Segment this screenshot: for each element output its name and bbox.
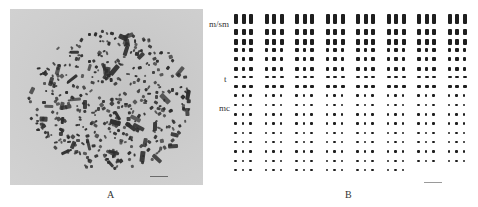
chromosome (157, 150, 161, 153)
karyotype-chromosome (341, 104, 344, 107)
row-label-mc: mc (219, 103, 230, 113)
karyotype-chromosome (303, 160, 306, 163)
karyotype-chromosome (249, 150, 252, 153)
chromosome (110, 77, 113, 81)
chromosome (126, 123, 130, 127)
karyotype-chromosome (394, 160, 397, 163)
chromosome (62, 149, 71, 156)
karyotype-chromosome (242, 141, 245, 144)
karyotype-chromosome (448, 67, 452, 71)
karyotype-chromosome (295, 48, 299, 52)
karyotype-chromosome (272, 94, 275, 97)
karyotype-chromosome (280, 48, 284, 52)
karyotype-chromosome (234, 14, 238, 24)
karyotype-chromosome (249, 104, 252, 107)
karyotype-chromosome (333, 39, 337, 45)
karyotype-chromosome (455, 141, 458, 144)
karyotype-chromosome (432, 29, 436, 35)
karyotype-chromosome (341, 76, 345, 79)
karyotype-chromosome (417, 85, 421, 88)
panel-b-karyotype (230, 14, 475, 184)
karyotype-chromosome (364, 76, 368, 79)
karyotype-chromosome (265, 67, 269, 71)
karyotype-chromosome (364, 14, 368, 24)
karyotype-chromosome (295, 85, 299, 88)
karyotype-chromosome (455, 160, 458, 163)
chromosome (170, 132, 178, 138)
chromosome (102, 100, 105, 103)
chromosome (156, 60, 159, 63)
karyotype-chromosome (341, 141, 344, 144)
karyotype-chromosome (295, 76, 299, 79)
karyotype-chromosome (448, 14, 452, 24)
karyotype-chromosome (265, 57, 269, 61)
chromosome (43, 81, 46, 85)
chromosome (127, 151, 132, 156)
chromosome (152, 71, 155, 74)
karyotype-chromosome (295, 150, 298, 153)
karyotype-chromosome (455, 48, 459, 52)
chromosome (53, 140, 57, 143)
karyotype-chromosome (387, 48, 391, 52)
karyotype-chromosome (310, 169, 313, 172)
karyotype-chromosome (242, 48, 246, 52)
chromosome (109, 130, 111, 133)
chromosome (56, 78, 60, 82)
chromosome (165, 125, 168, 129)
karyotype-chromosome (364, 85, 368, 88)
karyotype-chromosome (455, 39, 459, 45)
karyotype-chromosome (463, 29, 467, 35)
chromosome (69, 54, 72, 57)
karyotype-chromosome (333, 76, 337, 79)
chromosome (88, 59, 91, 62)
karyotype-chromosome (280, 104, 283, 107)
chromosome (109, 101, 114, 106)
karyotype-chromosome (417, 57, 421, 61)
chromosome (97, 148, 101, 152)
karyotype-chromosome (265, 85, 269, 88)
chromosome (42, 100, 46, 103)
karyotype-chromosome (326, 169, 329, 172)
karyotype-chromosome (425, 150, 428, 153)
karyotype-chromosome (272, 57, 276, 61)
karyotype-chromosome (280, 14, 284, 24)
karyotype-chromosome (425, 67, 429, 71)
karyotype-chromosome (371, 94, 374, 97)
karyotype-chromosome (364, 132, 367, 135)
chromosome (183, 120, 186, 123)
karyotype-chromosome (272, 76, 276, 79)
karyotype-chromosome (333, 104, 336, 107)
karyotype-chromosome (387, 132, 390, 135)
karyotype-chromosome (242, 76, 246, 79)
chromosome (50, 111, 54, 115)
karyotype-chromosome (303, 104, 306, 107)
karyotype-chromosome (356, 169, 359, 172)
chromosome (63, 138, 66, 142)
karyotype-chromosome (234, 150, 237, 153)
karyotype-chromosome (402, 14, 406, 24)
karyotype-chromosome (417, 113, 420, 116)
karyotype-chromosome (364, 150, 367, 153)
chromosome (163, 146, 167, 150)
chromosome (54, 85, 58, 88)
karyotype-chromosome (387, 67, 391, 71)
chromosome (154, 110, 158, 114)
chromosome (162, 106, 167, 111)
chromosome (157, 69, 160, 72)
chromosome (76, 139, 80, 143)
karyotype-chromosome (295, 141, 298, 144)
chromosome (156, 83, 160, 86)
karyotype-chromosome (265, 150, 268, 153)
chromosome (115, 116, 119, 119)
karyotype-chromosome (303, 85, 307, 88)
chromosome (79, 108, 82, 112)
karyotype-chromosome (364, 94, 367, 97)
karyotype-chromosome (394, 169, 397, 172)
karyotype-chromosome (356, 85, 360, 88)
chromosome (90, 76, 93, 79)
chromosome (93, 72, 96, 74)
karyotype-chromosome (463, 67, 467, 71)
karyotype-chromosome (242, 14, 246, 24)
karyotype-chromosome (463, 48, 467, 52)
chromosome (94, 32, 97, 36)
